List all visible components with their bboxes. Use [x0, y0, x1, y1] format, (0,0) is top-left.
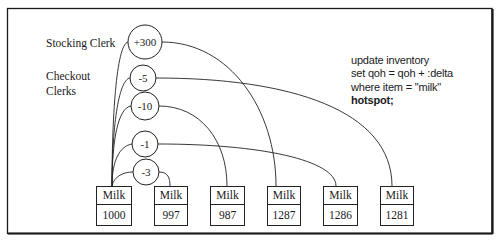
record-box-1000: Milk 1000 — [96, 186, 132, 226]
record-item: Milk — [381, 187, 413, 205]
record-item: Milk — [324, 187, 357, 205]
record-item: Milk — [268, 187, 300, 205]
record-item: Milk — [97, 187, 131, 205]
delta-minus5: -5 — [138, 73, 147, 84]
record-box-1287: Milk 1287 — [267, 186, 301, 226]
arc-plus300-to-1287 — [162, 42, 276, 186]
delta-minus1: -1 — [140, 139, 149, 150]
sql-line-hotspot: hotspot; — [351, 94, 453, 107]
sql-statement: update inventory set qoh = qoh + :delta … — [351, 54, 453, 107]
sql-line-update: update inventory — [351, 54, 453, 67]
arc-minus1-to-1286 — [158, 144, 336, 186]
record-qoh: 987 — [211, 205, 244, 225]
checkout-clerks-label-line2: Clerks — [46, 86, 76, 98]
arc-minus3-to-997 — [159, 172, 170, 186]
record-box-987: Milk 987 — [210, 186, 245, 226]
arc-1000-to-minus3 — [112, 172, 133, 186]
record-qoh: 1281 — [381, 205, 413, 225]
arc-1000-to-minus5 — [112, 78, 130, 186]
record-box-1281: Milk 1281 — [380, 186, 414, 226]
checkout-clerks-label-line1: Checkout — [46, 71, 90, 83]
stocking-clerk-label: Stocking Clerk — [46, 38, 115, 50]
record-qoh: 997 — [155, 205, 187, 225]
record-qoh: 1286 — [324, 205, 357, 225]
record-item: Milk — [155, 187, 187, 205]
record-item: Milk — [211, 187, 244, 205]
delta-minus3: -3 — [141, 167, 150, 178]
delta-minus10: -10 — [138, 101, 153, 112]
record-box-1286: Milk 1286 — [323, 186, 358, 226]
sql-line-set: set qoh = qoh + :delta — [351, 67, 453, 80]
record-box-997: Milk 997 — [154, 186, 188, 226]
record-qoh: 1000 — [97, 205, 131, 225]
read-arcs — [112, 42, 133, 186]
sql-line-where: where item = "milk" — [351, 81, 453, 94]
delta-plus300: +300 — [134, 37, 157, 48]
record-qoh: 1287 — [268, 205, 300, 225]
